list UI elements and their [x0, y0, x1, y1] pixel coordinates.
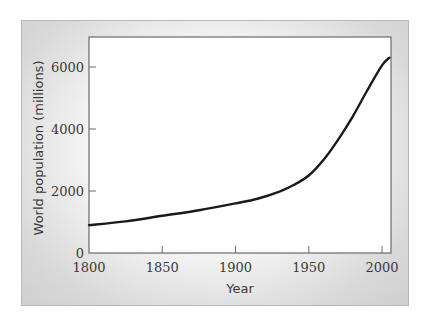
- y-tick-label: 4000: [51, 122, 84, 137]
- y-tick-label: 6000: [51, 60, 84, 75]
- y-axis-title: World population (millions): [31, 61, 46, 236]
- x-tick-label: 1800: [72, 260, 105, 275]
- y-tick-label: 0: [76, 246, 84, 261]
- y-tick-label: 2000: [51, 184, 84, 199]
- x-tick-label: 2000: [365, 260, 398, 275]
- x-tick-label: 1850: [146, 260, 179, 275]
- x-tick-label: 1900: [219, 260, 252, 275]
- x-tick-label: 1950: [292, 260, 325, 275]
- population-line-chart: 18001850190019502000 0200040006000 Year …: [0, 0, 431, 324]
- x-axis-title: Year: [225, 281, 254, 296]
